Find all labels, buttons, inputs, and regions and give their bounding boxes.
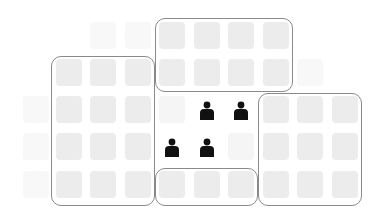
seat-cell	[228, 133, 254, 160]
group-left-outline	[51, 56, 155, 206]
seat-cell	[90, 22, 116, 49]
group-right-outline	[258, 93, 362, 206]
person-icon	[198, 138, 216, 158]
person-icon	[198, 101, 216, 121]
seat-cell	[125, 22, 151, 49]
seat-cell	[23, 133, 49, 160]
group-top-outline	[155, 18, 293, 92]
person-icon	[232, 101, 250, 121]
seat-cell	[23, 96, 49, 123]
seat-cell	[159, 96, 185, 123]
seat-diagram	[0, 0, 381, 219]
group-bottom-outline	[155, 168, 258, 206]
person-icon	[163, 138, 181, 158]
seat-cell	[297, 59, 323, 86]
seat-cell	[23, 171, 49, 198]
